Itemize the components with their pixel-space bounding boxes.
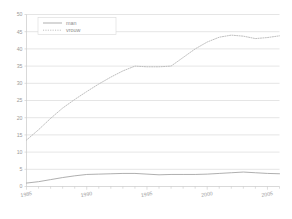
y-tick-label-30: 30 bbox=[17, 80, 23, 86]
chart-container: 05101520253035404550 1985199019952000200… bbox=[0, 0, 292, 219]
legend-label-vrouw: vrouw bbox=[66, 27, 80, 33]
y-tick-label-0: 0 bbox=[20, 183, 23, 189]
y-tick-label-15: 15 bbox=[17, 132, 23, 138]
y-tick-label-25: 25 bbox=[17, 97, 23, 103]
line-chart: 05101520253035404550 1985199019952000200… bbox=[0, 0, 292, 219]
y-tick-label-45: 45 bbox=[17, 29, 23, 35]
y-tick-label-50: 50 bbox=[17, 11, 23, 17]
legend-label-man: man bbox=[66, 20, 77, 26]
y-tick-label-5: 5 bbox=[20, 166, 23, 172]
y-tick-label-20: 20 bbox=[17, 115, 23, 121]
y-tick-label-40: 40 bbox=[17, 46, 23, 52]
y-tick-label-10: 10 bbox=[17, 149, 23, 155]
chart-legend: manvrouw bbox=[38, 18, 116, 35]
y-tick-label-35: 35 bbox=[17, 63, 23, 69]
